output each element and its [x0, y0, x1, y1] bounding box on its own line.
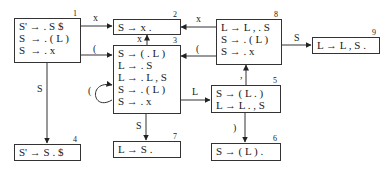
- edge-label-3-3: (: [88, 86, 91, 96]
- state-item: L → L , . S: [221, 21, 277, 33]
- state-item: S → . x: [221, 45, 277, 57]
- state-item: S → . ( L ): [118, 83, 176, 95]
- edge-label-3-2: x: [137, 34, 142, 44]
- edge-label-3-5: L: [192, 87, 198, 97]
- state-item: L → . S: [118, 59, 176, 71]
- state-number: 1: [73, 10, 77, 18]
- edge-label-8-9: S: [294, 33, 300, 43]
- state-number: 2: [173, 11, 177, 19]
- edge-label-5-6: ): [233, 123, 236, 133]
- state-item: S → x .: [118, 21, 176, 33]
- state-number: 9: [372, 29, 376, 37]
- state-item: S' → S . $: [19, 146, 76, 158]
- state-1: S' → . S $ S → . ( L ) S → . x: [14, 18, 81, 63]
- edge-label-5-8: ,: [240, 70, 243, 80]
- edge-label-1-2: x: [93, 13, 98, 23]
- state-number: 4: [73, 136, 77, 144]
- state-number: 5: [273, 77, 277, 85]
- state-item: S → ( L ) .: [216, 145, 276, 157]
- state-6: S → ( L ) .: [211, 143, 281, 161]
- edge-label-1-3: (: [93, 44, 96, 54]
- state-item: L → S .: [118, 143, 176, 155]
- state-item: L → L , S .: [317, 39, 375, 51]
- state-item: S → . ( L ): [19, 32, 76, 44]
- state-5: S → ( L . ) L → L . , S: [211, 85, 281, 113]
- edge-label-8-3: (: [196, 44, 199, 54]
- state-item: L → . L , S: [118, 71, 176, 83]
- state-number: 6: [273, 135, 277, 143]
- state-number: 8: [274, 11, 278, 19]
- state-item: S' → . S $: [19, 20, 76, 32]
- state-8: L → L , . S S → . ( L ) S → . x: [216, 19, 282, 65]
- state-item: L → L . , S: [216, 99, 276, 111]
- state-item: S → . x: [118, 95, 176, 107]
- state-9: L → L , S .: [312, 37, 380, 54]
- edge-label-3-7: S: [136, 121, 142, 131]
- state-3: S → ( . L ) L → . S L → . L , S S → . ( …: [113, 45, 181, 114]
- state-number: 3: [173, 37, 177, 45]
- edge-label-1-4: S: [37, 84, 43, 94]
- state-4: S' → S . $: [14, 144, 81, 161]
- state-item: S → ( L . ): [216, 87, 276, 99]
- state-2: S → x .: [113, 19, 181, 35]
- state-item: S → ( . L ): [118, 47, 176, 59]
- state-number: 7: [173, 133, 177, 141]
- edge-label-8-2: x: [196, 14, 201, 24]
- state-7: L → S .: [113, 141, 181, 158]
- edge-3-3: [95, 84, 112, 102]
- state-item: S → . x: [19, 44, 76, 56]
- state-item: S → . ( L ): [221, 33, 277, 45]
